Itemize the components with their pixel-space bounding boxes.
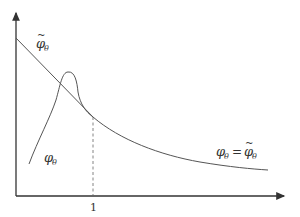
phi-theta-label: φ θ [44, 150, 57, 167]
svg-text:θ: θ [252, 152, 257, 161]
svg-text:~: ~ [37, 29, 45, 40]
phi-tilde-label: φ ~ θ [36, 29, 49, 53]
diagram-canvas: φ ~ θ φ θ φ θ = φ ~ θ 1 [0, 0, 300, 217]
phi-theta-curve [29, 72, 93, 164]
common-tail-curve [93, 117, 268, 170]
svg-text:=: = [232, 145, 242, 159]
svg-text:~: ~ [245, 137, 253, 148]
svg-text:θ: θ [52, 158, 57, 167]
svg-text:θ: θ [224, 152, 229, 161]
x-tick-label-1: 1 [90, 201, 97, 214]
equality-label: φ θ = φ ~ θ [216, 137, 257, 161]
svg-text:θ: θ [44, 44, 49, 53]
